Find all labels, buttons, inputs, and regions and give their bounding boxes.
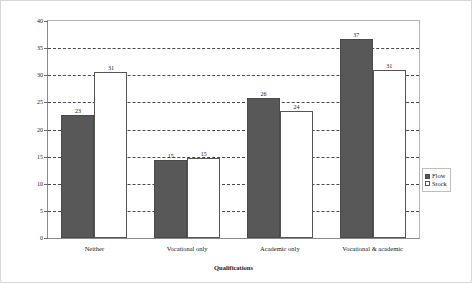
bar-value-label: 26 [248, 91, 279, 97]
legend-swatch-stock-icon [425, 181, 430, 186]
y-tick-label: 5 [40, 208, 48, 214]
bar-value-label: 15 [155, 153, 186, 159]
bar-value-label: 31 [374, 63, 405, 69]
x-tick-label: Vocational & academic [342, 246, 403, 253]
bar-stock-academic-only[interactable]: 24 [280, 111, 313, 238]
bar-value-label: 23 [62, 108, 93, 114]
y-tick-label: 20 [37, 127, 48, 133]
chart-legend: Flow Stock [422, 168, 451, 192]
chart-figure: Percentage 05101520253035402331Neither15… [0, 0, 472, 283]
bar-stock-neither[interactable]: 31 [94, 72, 127, 238]
x-tick-label: Academic only [260, 246, 300, 253]
bar-group: 2624Academic only [234, 21, 327, 238]
bar-stock-vocational-academic[interactable]: 31 [373, 70, 406, 238]
bar-flow-vocational-academic[interactable]: 37 [340, 39, 373, 238]
bar-group: 2331Neither [48, 21, 141, 238]
y-tick-label: 35 [37, 45, 48, 51]
legend-label-stock: Stock [432, 181, 447, 188]
legend-item-stock: Stock [425, 181, 447, 188]
bar-group: 3731Vocational & academic [326, 21, 419, 238]
y-tick-label: 10 [37, 181, 48, 187]
bar-value-label: 24 [281, 104, 312, 110]
bar-value-label: 31 [95, 65, 126, 71]
bar-flow-academic-only[interactable]: 26 [247, 98, 280, 238]
y-tick-label: 40 [37, 18, 48, 24]
bar-group: 1515Vocational only [141, 21, 234, 238]
legend-item-flow: Flow [425, 173, 447, 180]
y-tick-label: 0 [40, 235, 48, 241]
legend-label-flow: Flow [432, 173, 445, 180]
y-tick-label: 30 [37, 72, 48, 78]
bar-value-label: 15 [188, 151, 219, 157]
plot-inner: 05101520253035402331Neither1515Vocationa… [48, 21, 419, 238]
y-tick-label: 15 [37, 154, 48, 160]
bar-flow-vocational-only[interactable]: 15 [154, 160, 187, 238]
x-axis-title: Qualifications [47, 264, 420, 271]
y-tick-label: 25 [37, 99, 48, 105]
x-tick-label: Vocational only [167, 246, 208, 253]
bar-stock-vocational-only[interactable]: 15 [187, 158, 220, 238]
bar-flow-neither[interactable]: 23 [61, 115, 94, 238]
legend-swatch-flow-icon [425, 174, 430, 179]
bar-value-label: 37 [341, 32, 372, 38]
plot-area: 05101520253035402331Neither1515Vocationa… [47, 20, 420, 239]
x-tick-label: Neither [85, 246, 105, 253]
